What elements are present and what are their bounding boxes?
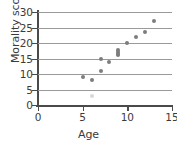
y-axis-tick-mark bbox=[32, 74, 38, 75]
gridline-horizontal bbox=[38, 12, 172, 13]
data-point bbox=[152, 19, 156, 23]
x-axis-tick-mark bbox=[83, 106, 84, 111]
x-axis-title: Age bbox=[0, 128, 177, 141]
x-axis-line bbox=[36, 105, 173, 107]
y-axis-tick-label: 30 bbox=[14, 7, 33, 18]
data-point bbox=[90, 78, 94, 82]
data-point bbox=[81, 75, 85, 79]
data-point bbox=[99, 69, 103, 73]
x-axis-tick-label: 10 bbox=[121, 112, 134, 123]
x-axis-tick-mark bbox=[127, 106, 128, 111]
x-axis-tick-label: 15 bbox=[165, 112, 177, 123]
x-axis-tick-mark bbox=[172, 106, 173, 111]
y-axis-tick-label: 10 bbox=[14, 69, 33, 80]
gridline-horizontal bbox=[38, 74, 172, 75]
gridline-horizontal bbox=[38, 90, 172, 91]
x-axis-tick-label: 5 bbox=[79, 112, 86, 123]
x-axis-tick-label: 0 bbox=[35, 112, 42, 123]
x-axis-tick-mark bbox=[38, 106, 39, 111]
y-axis-tick-label: 20 bbox=[14, 38, 33, 49]
y-axis-tick-mark bbox=[32, 43, 38, 44]
gridline-horizontal bbox=[38, 43, 172, 44]
y-axis-tick-mark bbox=[32, 59, 38, 60]
x-axis-tick-labels: 051015 bbox=[0, 112, 177, 126]
gridline-horizontal bbox=[38, 59, 172, 60]
data-point bbox=[125, 41, 129, 45]
scatter-chart: Morality score 051015202530 051015 Age bbox=[0, 0, 177, 144]
y-axis-tick-label: 5 bbox=[14, 84, 33, 95]
data-point bbox=[99, 57, 103, 61]
data-point bbox=[90, 94, 94, 98]
y-axis-tick-mark bbox=[32, 28, 38, 29]
y-axis-tick-mark bbox=[32, 90, 38, 91]
y-axis-tick-label: 15 bbox=[14, 53, 33, 64]
y-axis-tick-mark bbox=[32, 12, 38, 13]
data-point bbox=[107, 60, 111, 64]
plot-area bbox=[38, 12, 172, 105]
gridline-horizontal bbox=[38, 28, 172, 29]
data-point bbox=[143, 30, 147, 34]
data-point bbox=[134, 35, 138, 39]
y-axis-tick-label: 25 bbox=[14, 22, 33, 33]
y-axis-tick-label: 0 bbox=[14, 100, 33, 111]
